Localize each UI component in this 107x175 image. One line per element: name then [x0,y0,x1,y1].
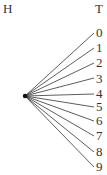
leaf-label-3: 3 [96,72,103,85]
leaf-label-7: 7 [96,129,103,142]
leaf-label-5: 5 [96,100,103,113]
leaf-label-6: 6 [96,114,103,127]
leaf-label-8: 8 [96,145,103,158]
root-node [23,94,27,98]
leaf-label-9: 9 [96,160,103,173]
leaf-label-2: 2 [96,56,103,69]
tree-branches [0,0,107,175]
leaf-label-0: 0 [96,26,103,39]
leaf-label-1: 1 [96,41,103,54]
